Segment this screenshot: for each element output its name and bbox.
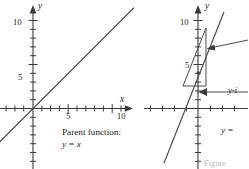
left-y-tick-10: 10 bbox=[13, 17, 22, 27]
figure-caption: Figure bbox=[204, 159, 226, 168]
right-y-tick-5: 5 bbox=[185, 60, 189, 70]
left-x-tick-10: 10 bbox=[117, 111, 126, 121]
left-y-axis-label: y bbox=[38, 1, 42, 11]
parent-function-equation: y = x bbox=[62, 139, 81, 149]
left-x-tick-5: 5 bbox=[66, 111, 70, 121]
right-y-axis-label: y bbox=[205, 1, 209, 11]
parent-function-caption: Parent function: bbox=[62, 127, 121, 137]
right-y-tick-10: 10 bbox=[180, 17, 189, 27]
y-intercept-point bbox=[197, 72, 200, 75]
line-transformed bbox=[164, 12, 224, 163]
y-intercept-callout-arrow bbox=[199, 88, 249, 96]
left-x-axis-label: x bbox=[120, 94, 124, 104]
slope-triangle bbox=[183, 28, 206, 86]
figure-container: 10 5 5 10 y x bbox=[0, 0, 248, 169]
y-intercept-callout-label: y-i bbox=[228, 86, 237, 96]
left-y-tick-5: 5 bbox=[18, 72, 22, 82]
transformed-function-equation: y = bbox=[221, 125, 234, 135]
